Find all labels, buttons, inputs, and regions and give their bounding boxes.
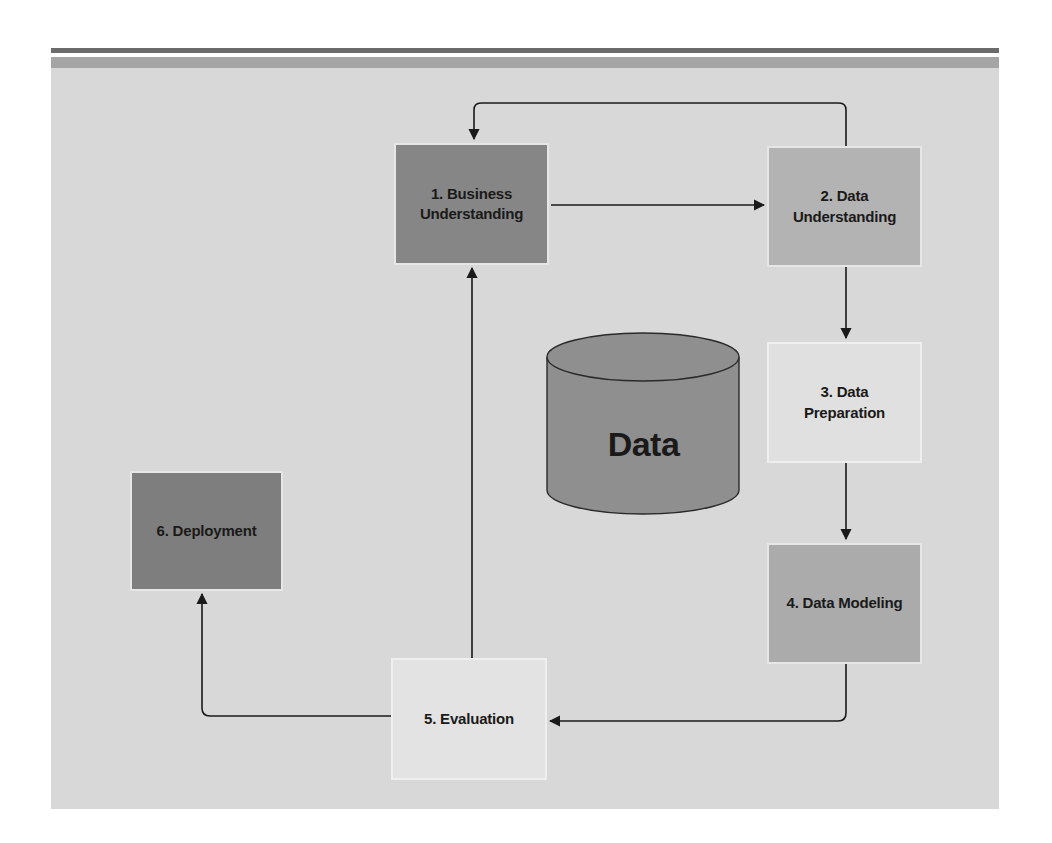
step-label-line1: 1. Business bbox=[420, 184, 523, 204]
step-label-line1: 3. Data bbox=[804, 382, 885, 402]
header-bar-light bbox=[51, 57, 999, 68]
step-label-line2: Understanding bbox=[793, 207, 896, 227]
step-label-line2: Understanding bbox=[420, 204, 523, 224]
step-label-line1: 2. Data bbox=[793, 186, 896, 206]
step-label-line1: 5. Evaluation bbox=[424, 709, 514, 729]
step-business-understanding: 1. Business Understanding bbox=[394, 143, 549, 265]
step-label-line1: 4. Data Modeling bbox=[787, 593, 903, 613]
step-data-modeling: 4. Data Modeling bbox=[767, 543, 922, 664]
header-bar-dark bbox=[51, 48, 999, 53]
step-label-line2: Preparation bbox=[804, 403, 885, 423]
data-store-label: Data bbox=[546, 425, 741, 464]
step-data-preparation: 3. Data Preparation bbox=[767, 342, 922, 463]
step-evaluation: 5. Evaluation bbox=[391, 658, 547, 780]
step-data-understanding: 2. Data Understanding bbox=[767, 146, 922, 267]
step-deployment: 6. Deployment bbox=[130, 471, 283, 591]
step-label-line1: 6. Deployment bbox=[157, 521, 257, 541]
